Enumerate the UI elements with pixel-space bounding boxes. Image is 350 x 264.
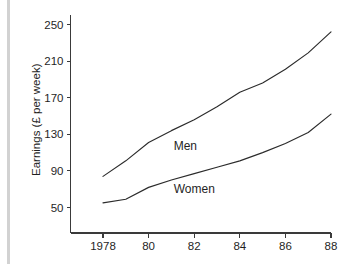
series-inline-labels: MenWomen bbox=[174, 139, 215, 196]
y-tick-label: 50 bbox=[51, 202, 64, 214]
axes-group bbox=[71, 15, 332, 233]
series-label-women: Women bbox=[174, 182, 215, 196]
x-tick-label: 88 bbox=[325, 240, 338, 252]
x-tick-label: 86 bbox=[279, 240, 292, 252]
x-tick-label: 84 bbox=[233, 240, 246, 252]
y-tick-label: 130 bbox=[44, 128, 63, 140]
y-tick-label: 90 bbox=[51, 165, 64, 177]
y-tick-label: 250 bbox=[44, 19, 63, 31]
y-tick-label: 210 bbox=[44, 55, 63, 67]
y-axis-ticks bbox=[67, 25, 71, 208]
y-axis-tick-labels: 5090130170210250 bbox=[44, 19, 63, 214]
x-tick-label: 1978 bbox=[90, 240, 116, 252]
series-line-women bbox=[103, 114, 331, 203]
x-axis-ticks bbox=[103, 233, 331, 238]
line-chart-canvas: 5090130170210250 19788082848688 MenWomen… bbox=[0, 0, 350, 264]
y-axis-title-text: Earnings (£ per week) bbox=[30, 63, 42, 176]
x-tick-label: 80 bbox=[142, 240, 155, 252]
chart-figure: 5090130170210250 19788082848688 MenWomen… bbox=[0, 0, 350, 264]
series-label-men: Men bbox=[174, 139, 197, 153]
series-line-men bbox=[103, 32, 331, 177]
y-tick-label: 170 bbox=[44, 92, 63, 104]
series-lines bbox=[103, 32, 331, 203]
x-tick-label: 82 bbox=[188, 240, 201, 252]
y-axis-title: Earnings (£ per week) bbox=[30, 63, 42, 176]
x-axis-tick-labels: 19788082848688 bbox=[90, 240, 337, 252]
